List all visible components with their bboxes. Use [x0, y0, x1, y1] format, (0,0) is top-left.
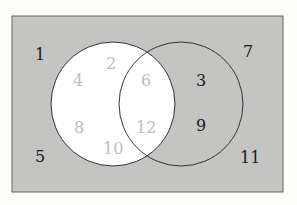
- set-a-label-2: 2: [106, 54, 116, 73]
- set-b-label-3: 3: [196, 71, 206, 90]
- universe-label-11: 11: [240, 148, 260, 167]
- universe-label-1: 1: [35, 45, 45, 64]
- set-a-label-4: 4: [73, 71, 83, 90]
- intersection-label-12: 12: [136, 118, 156, 137]
- universe-label-7: 7: [243, 42, 253, 61]
- universe-label-5: 5: [35, 147, 45, 166]
- set-a-label-8: 8: [74, 118, 84, 137]
- intersection-label-6: 6: [141, 71, 151, 90]
- venn-diagram: 1 5 7 11 2 4 8 10 6 12 3 9: [0, 0, 297, 205]
- set-b-label-9: 9: [196, 116, 206, 135]
- set-a-label-10: 10: [103, 139, 123, 158]
